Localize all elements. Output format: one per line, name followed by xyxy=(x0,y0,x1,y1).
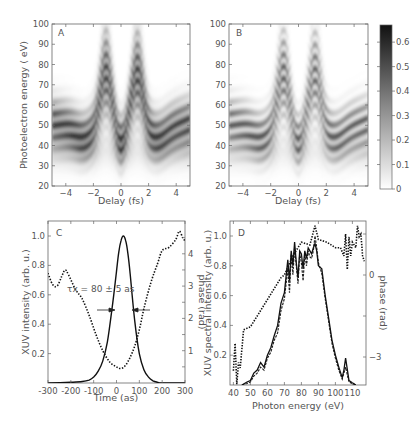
tick-label: 0.4 xyxy=(213,320,227,330)
tick-label: 0.5 xyxy=(396,62,410,72)
phase-curve-c xyxy=(48,231,185,368)
tick-label: 30 xyxy=(38,161,49,171)
tick-label: -300 xyxy=(38,386,57,396)
figure: −4−20242030405060708090100 A Delay (fs) … xyxy=(0,0,420,433)
tick-label: 2 xyxy=(188,313,193,323)
tick-label: 110 xyxy=(344,388,360,398)
panel-c: -300-200-10001002003000.20.40.60.81.0123… xyxy=(20,221,208,403)
tick-label: 0.1 xyxy=(396,160,410,170)
tick-label: 40 xyxy=(38,141,49,151)
tick-label: 1.0 xyxy=(31,231,45,241)
tick-label: 0.6 xyxy=(31,290,45,300)
tick-label: 80 xyxy=(215,60,226,70)
tick-label: 60 xyxy=(262,388,273,398)
tick-label: 0.2 xyxy=(31,349,45,359)
panel-d: 4050607080901001100.20.40.60.81.00−3 D P… xyxy=(202,221,389,411)
tick-label: 0 xyxy=(369,270,374,280)
tick-label: 300 xyxy=(177,386,193,396)
tick-label: 100 xyxy=(210,19,226,29)
tick-label: 4 xyxy=(173,188,178,198)
spectrogram-heatmap-a xyxy=(52,24,190,186)
tick-label: 90 xyxy=(215,39,226,49)
tick-label: 50 xyxy=(215,120,226,130)
tick-label: 0.8 xyxy=(213,261,227,271)
tick-label: 0.2 xyxy=(213,350,227,360)
tick-label: 0.4 xyxy=(31,319,45,329)
plot-frame-c xyxy=(48,221,185,383)
tick-label: 0.8 xyxy=(31,260,45,270)
tick-label: 4 xyxy=(351,188,356,198)
tick-label: 50 xyxy=(245,388,256,398)
colorbar: 00.10.20.30.40.50.6 xyxy=(377,25,410,194)
y-axis-label-a: Photoelectron energy ( eV) xyxy=(18,41,29,169)
tick-label: 80 xyxy=(296,388,307,398)
tick-label: 80 xyxy=(38,60,49,70)
y-axis-label-d: XUV spectral intensity (arb. u.) xyxy=(202,230,213,377)
tick-label: 0 xyxy=(396,184,401,194)
x-axis-label-c: Time (as) xyxy=(93,392,138,403)
tick-label: 60 xyxy=(215,100,226,110)
intensity-curve-c xyxy=(48,236,185,383)
tick-label: 20 xyxy=(38,181,49,191)
tick-label: 30 xyxy=(215,161,226,171)
spectrogram-heatmap-b xyxy=(229,24,368,186)
tick-label: 70 xyxy=(215,80,226,90)
panel-letter-b: B xyxy=(236,28,242,38)
x-axis-label-b: Delay (fs) xyxy=(275,195,321,206)
panel-letter-d: D xyxy=(238,228,245,238)
tick-label: 3 xyxy=(188,281,193,291)
tick-label: 40 xyxy=(215,141,226,151)
tick-label: -200 xyxy=(61,386,80,396)
tick-label: 60 xyxy=(38,100,49,110)
tick-label: 0.6 xyxy=(396,37,410,47)
axes-d: 4050607080901001100.20.40.60.81.00−3 xyxy=(213,221,381,398)
tick-label: 70 xyxy=(279,388,290,398)
tick-label: 20 xyxy=(215,181,226,191)
left-arrow-head-icon xyxy=(109,308,115,312)
panel-a: −4−20242030405060708090100 A Delay (fs) … xyxy=(18,19,190,206)
y2-axis-label-d: phase (rad) xyxy=(378,276,389,331)
tick-label: −3 xyxy=(369,352,382,362)
colorbar-gradient xyxy=(380,25,392,189)
tick-label: 70 xyxy=(38,80,49,90)
panel-letter-c: C xyxy=(56,228,62,238)
tick-label: 100 xyxy=(33,19,49,29)
tick-label: 100 xyxy=(327,388,343,398)
tick-label: 0.2 xyxy=(396,135,410,145)
tick-label: 90 xyxy=(38,39,49,49)
y-axis-label-c: XUV intensity (arb. u.) xyxy=(20,249,31,354)
tick-label: 1.0 xyxy=(213,231,227,241)
tick-label: 1 xyxy=(188,346,193,356)
tick-label: 2 xyxy=(146,188,151,198)
tick-label: 200 xyxy=(154,386,170,396)
tick-label: −4 xyxy=(60,188,73,198)
tick-label: 90 xyxy=(313,388,324,398)
tick-label: 2 xyxy=(324,188,329,198)
tick-label: 40 xyxy=(228,388,239,398)
tick-label: 0.6 xyxy=(213,291,227,301)
tick-label: 0.3 xyxy=(396,111,410,121)
tick-label: 0.4 xyxy=(396,86,410,96)
tick-label: −4 xyxy=(237,188,250,198)
fwhm-arrows xyxy=(97,308,150,312)
tick-label: 50 xyxy=(38,120,49,130)
x-axis-label-a: Delay (fs) xyxy=(98,195,144,206)
tick-label: 4 xyxy=(188,249,193,259)
panel-letter-a: A xyxy=(58,28,65,38)
x-axis-label-d: Photon energy (eV) xyxy=(252,400,344,411)
fwhm-annotation: τx = 80 ± 5 as xyxy=(67,284,135,294)
panel-b: −4−20242030405060708090100 B Delay (fs) xyxy=(210,19,369,206)
